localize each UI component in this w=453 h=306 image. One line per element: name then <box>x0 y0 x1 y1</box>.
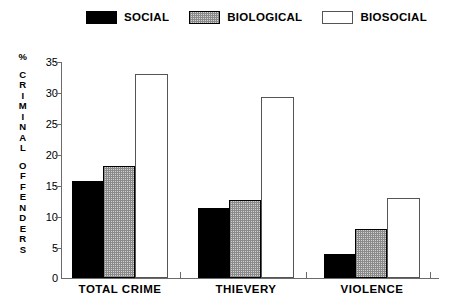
y-tick-mark <box>55 248 61 249</box>
bar-violence-social[interactable] <box>324 254 355 278</box>
bar-total-crime-biosocial[interactable] <box>135 74 168 278</box>
y-axis-tick-labels: 35 30 25 20 15 10 5 0 <box>34 0 58 306</box>
y-axis-title-char: D <box>19 213 26 224</box>
y-tick-mark <box>55 217 61 218</box>
y-axis-title-char: M <box>19 101 27 112</box>
y-axis-line <box>61 62 62 279</box>
bar-thievery-biosocial[interactable] <box>261 97 294 278</box>
y-axis-title: % C R I M I N A L O F F E N D E R S <box>14 52 32 282</box>
y-tick-mark <box>55 186 61 187</box>
x-group-separator <box>180 272 181 279</box>
x-group-label-thievery: THIEVERY <box>186 283 306 295</box>
y-tick-label: 0 <box>36 273 58 284</box>
bar-violence-biological[interactable] <box>355 229 387 278</box>
y-axis-title-char: S <box>20 245 27 256</box>
x-axis-line <box>61 278 439 279</box>
x-group-separator <box>306 272 307 279</box>
bar-thievery-biological[interactable] <box>229 200 261 278</box>
y-axis-title-char: % <box>19 52 28 63</box>
x-group-separator <box>430 272 431 279</box>
bar-violence-biosocial[interactable] <box>387 198 420 278</box>
y-axis-title-char: R <box>19 80 26 91</box>
y-tick-mark <box>55 124 61 125</box>
y-axis-title-char: E <box>20 192 27 203</box>
bar-total-crime-biological[interactable] <box>103 166 135 278</box>
bar-chart: % C R I M I N A L O F F E N D E R S 35 3… <box>0 0 453 306</box>
x-group-label-total-crime: TOTAL CRIME <box>60 283 180 295</box>
y-axis-title-char: R <box>19 234 26 245</box>
y-tick-mark <box>55 155 61 156</box>
y-axis-title-char: N <box>19 122 26 133</box>
y-tick-mark <box>55 62 61 63</box>
y-tick-mark <box>55 93 61 94</box>
y-axis-title-char: L <box>20 143 26 154</box>
bar-total-crime-social[interactable] <box>72 181 103 278</box>
bar-thievery-social[interactable] <box>198 208 229 278</box>
x-group-label-violence: VIOLENCE <box>312 283 432 295</box>
y-axis-title-char: F <box>20 171 26 182</box>
